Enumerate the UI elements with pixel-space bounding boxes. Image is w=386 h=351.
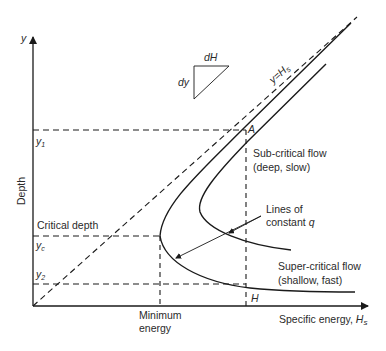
supercritical-label-2: (shallow, fast) bbox=[278, 274, 342, 286]
critical-depth-label: Critical depth bbox=[37, 219, 98, 231]
supercritical-label-1: Super-critical flow bbox=[278, 260, 361, 272]
x-axis-label: Specific energy, Hs bbox=[279, 313, 367, 327]
constant-q-label-2: constant q bbox=[266, 216, 315, 228]
point-h-label: H bbox=[251, 292, 259, 304]
subcritical-label-1: Sub-critical flow bbox=[253, 147, 327, 159]
yc-label: yc bbox=[35, 239, 45, 252]
minimum-energy-label-2: energy bbox=[139, 322, 172, 334]
y-axis-symbol: y bbox=[20, 32, 27, 44]
slope-triangle bbox=[194, 66, 229, 99]
constant-q-label-1: Lines of bbox=[266, 203, 303, 215]
y1-label: y1 bbox=[35, 135, 45, 148]
pointer-arrow-inner bbox=[229, 216, 261, 233]
subcritical-label-2: (deep, slow) bbox=[253, 161, 310, 173]
slope-dh-label: dH bbox=[204, 51, 218, 63]
specific-energy-diagram: y Depth Specific energy, Hs y=Hs dH dy y… bbox=[0, 0, 386, 351]
slope-dy-label: dy bbox=[178, 76, 190, 88]
y2-label: y2 bbox=[35, 268, 45, 281]
minimum-energy-label-1: Minimum bbox=[139, 309, 182, 321]
y-axis-label: Depth bbox=[15, 177, 27, 205]
